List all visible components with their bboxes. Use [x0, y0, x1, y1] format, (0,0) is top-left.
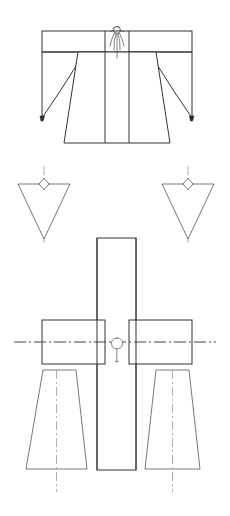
right-sleeve-tie-knot — [190, 116, 195, 121]
left-trapezoid-group — [26, 370, 87, 492]
technical-line-drawing — [0, 0, 230, 516]
left-triangle-group — [18, 166, 70, 245]
right-inverted-triangle — [162, 184, 214, 239]
left-inverted-triangle — [18, 184, 70, 239]
right-triangle-group — [162, 166, 214, 245]
cross-assembly — [14, 238, 216, 492]
kimono-front-view — [40, 26, 194, 143]
kimono-body-panel — [64, 52, 170, 143]
drawing-canvas: Garment Technical Line Drawing — [0, 0, 230, 516]
right-trapezoid — [145, 370, 200, 469]
left-sleeve-tie-knot — [40, 116, 45, 121]
right-trapezoid-group — [145, 370, 200, 492]
triangle-pair — [18, 166, 214, 245]
left-trapezoid — [26, 370, 87, 469]
